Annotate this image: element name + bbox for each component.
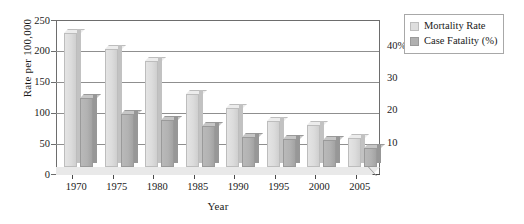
bar-front-face: [226, 108, 239, 167]
bar-group: [97, 20, 138, 167]
y-tick-label: 150: [16, 77, 50, 88]
bar-chart: Rate per 100,000 Year 250 200 150 100 50…: [0, 0, 524, 224]
bar-front-face: [145, 61, 158, 167]
x-tick-mark: [194, 175, 195, 179]
bar-mortality-rate[interactable]: [348, 138, 361, 167]
legend: Mortality Rate Case Fatality (%): [404, 14, 504, 54]
bar-front-face: [307, 125, 320, 167]
bar-case-fatality[interactable]: [121, 114, 134, 167]
bar-case-fatality[interactable]: [202, 126, 215, 167]
x-tick-label: 1980: [134, 182, 180, 193]
y-tick-label: 50: [16, 139, 50, 150]
bar-front-face: [242, 137, 255, 167]
bar-front-face: [283, 139, 296, 167]
x-tick-label: 1975: [94, 182, 140, 193]
bar-front-face: [80, 98, 93, 167]
y-tick-label: 250: [16, 16, 50, 27]
x-tick-label: 1995: [256, 182, 302, 193]
bar-case-fatality[interactable]: [283, 139, 296, 167]
bar-case-fatality[interactable]: [242, 137, 255, 167]
x-tick-label: 2005: [337, 182, 383, 193]
bar-mortality-rate[interactable]: [226, 108, 239, 167]
legend-label: Mortality Rate: [424, 21, 486, 32]
bar-group: [259, 20, 300, 167]
x-axis-title: Year: [56, 200, 380, 212]
x-tick-mark: [234, 175, 235, 179]
bar-front-face: [323, 140, 336, 167]
bar-front-face: [267, 121, 280, 167]
y-tick-label: 200: [16, 46, 50, 57]
chart-floor: [56, 167, 380, 175]
legend-swatch-icon: [410, 22, 419, 31]
bar-mortality-rate[interactable]: [64, 33, 77, 167]
bar-mortality-rate[interactable]: [186, 94, 199, 168]
legend-label: Case Fatality (%): [424, 36, 497, 47]
x-tick-label: 1970: [53, 182, 99, 193]
y2-tick-label: 30: [387, 73, 421, 84]
legend-item-case-fatality[interactable]: Case Fatality (%): [410, 34, 497, 49]
x-tick-mark: [153, 175, 154, 179]
bar-front-face: [364, 148, 377, 167]
legend-item-mortality-rate[interactable]: Mortality Rate: [410, 19, 497, 34]
bar-front-face: [186, 94, 199, 168]
y-tick-label: 100: [16, 108, 50, 119]
bar-front-face: [202, 126, 215, 167]
legend-swatch-icon: [410, 37, 419, 46]
x-tick-label: 1985: [175, 182, 221, 193]
y2-tick-label: 10: [387, 138, 421, 149]
bar-group: [137, 20, 178, 167]
bar-group: [299, 20, 340, 167]
bar-group: [178, 20, 219, 167]
x-tick-mark: [275, 175, 276, 179]
bar-front-face: [348, 138, 361, 167]
bar-mortality-rate[interactable]: [145, 61, 158, 167]
x-tick-label: 1990: [215, 182, 261, 193]
bar-group: [218, 20, 259, 167]
x-tick-mark: [356, 175, 357, 179]
bar-mortality-rate[interactable]: [307, 125, 320, 167]
bar-front-face: [64, 33, 77, 167]
x-tick-mark: [113, 175, 114, 179]
y-tick-label: 0: [16, 170, 50, 181]
bar-side-face: [377, 144, 381, 163]
bar-front-face: [161, 120, 174, 167]
bar-case-fatality[interactable]: [80, 98, 93, 167]
plot-area: [56, 20, 380, 175]
x-tick-mark: [72, 175, 73, 179]
bar-front-face: [105, 49, 118, 167]
bar-group: [56, 20, 97, 167]
bar-group: [340, 20, 381, 167]
x-tick-mark: [315, 175, 316, 179]
bar-mortality-rate[interactable]: [105, 49, 118, 167]
bar-mortality-rate[interactable]: [267, 121, 280, 167]
y2-tick-label: 20: [387, 105, 421, 116]
bar-case-fatality[interactable]: [364, 148, 377, 167]
x-tick-label: 2000: [296, 182, 342, 193]
bar-case-fatality[interactable]: [161, 120, 174, 167]
bar-case-fatality[interactable]: [323, 140, 336, 167]
bar-front-face: [121, 114, 134, 167]
